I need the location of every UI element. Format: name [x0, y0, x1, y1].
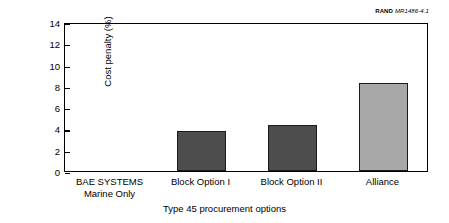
y-axis-tick-mark	[65, 130, 70, 131]
y-axis-tick-label: 14	[49, 18, 60, 29]
y-axis-tick-label: 10	[49, 61, 60, 72]
chart-plot-area: Cost penalty (%) 02468101214	[64, 23, 428, 172]
bar-3	[268, 125, 317, 171]
rand-report-id: MR1486-4.1	[395, 8, 429, 14]
y-axis-tick-label: 8	[55, 82, 60, 93]
y-axis-title: Cost penalty (%)	[102, 0, 113, 107]
y-axis-tick-label: 4	[55, 124, 60, 135]
y-axis-tick-mark	[65, 88, 70, 89]
rand-brand-label: RAND	[375, 8, 393, 14]
y-axis-tick-mark	[65, 109, 70, 110]
x-axis-category-label: BAE SYSTEMS Marine Only	[64, 176, 155, 199]
x-axis-category-label: Block Option II	[246, 176, 337, 188]
x-axis-category-label: Alliance	[337, 176, 428, 188]
x-axis-category-label: Block Option I	[155, 176, 246, 188]
y-axis-tick-label: 12	[49, 39, 60, 50]
bar-2	[177, 131, 226, 171]
y-axis-tick-label: 0	[55, 167, 60, 178]
y-axis-tick-mark	[65, 152, 70, 153]
y-axis-tick-mark	[65, 24, 70, 25]
x-axis-title: Type 45 procurement options	[0, 203, 449, 214]
y-axis-tick-label: 2	[55, 146, 60, 157]
rand-credit-line: RANDMR1486-4.1	[375, 7, 429, 15]
y-axis-tick-label: 6	[55, 103, 60, 114]
y-axis-tick-mark	[65, 67, 70, 68]
y-axis-tick-mark	[65, 45, 70, 46]
bar-4	[359, 83, 408, 171]
y-axis-tick-mark	[65, 173, 70, 174]
